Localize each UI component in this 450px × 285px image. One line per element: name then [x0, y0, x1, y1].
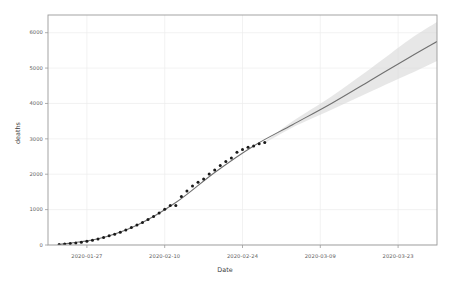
x-axis-title: Date — [0, 266, 450, 274]
data-points — [58, 141, 267, 246]
x-tick-label: 2020-01-27 — [57, 253, 117, 259]
x-tick-label: 2020-03-23 — [368, 253, 428, 259]
y-tick-label: 6000 — [29, 29, 43, 35]
tick-marks — [45, 33, 398, 248]
chart-figure: 0100020003000400050006000 2020-01-272020… — [0, 0, 450, 285]
y-tick-label: 3000 — [29, 136, 43, 142]
y-tick-label: 1000 — [29, 206, 43, 212]
y-tick-label: 5000 — [29, 65, 43, 71]
y-tick-label: 4000 — [29, 100, 43, 106]
x-tick-label: 2020-03-09 — [290, 253, 350, 259]
gridlines — [48, 15, 437, 245]
x-tick-label: 2020-02-10 — [135, 253, 195, 259]
x-tick-label: 2020-02-24 — [213, 253, 273, 259]
plot-canvas — [0, 0, 450, 285]
y-axis-title: deaths — [14, 122, 22, 144]
y-tick-label: 0 — [40, 242, 43, 248]
confidence-band — [265, 22, 437, 143]
y-tick-label: 2000 — [29, 171, 43, 177]
